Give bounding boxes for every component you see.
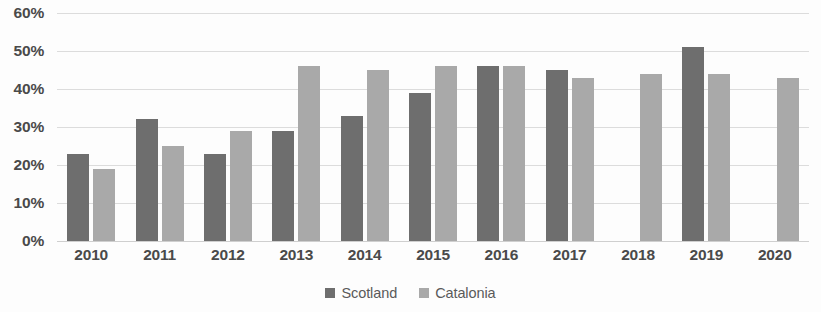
bar-catalonia xyxy=(572,78,594,241)
bar-scotland xyxy=(136,119,158,241)
x-axis-tick: 2014 xyxy=(330,246,398,274)
bar-catalonia xyxy=(708,74,730,241)
y-axis-tick: 0% xyxy=(22,232,44,250)
x-axis-tick: 2012 xyxy=(194,246,262,274)
bar-scotland xyxy=(546,70,568,241)
legend-swatch-icon xyxy=(325,288,335,298)
bar-catalonia xyxy=(367,70,389,241)
x-axis-tick: 2020 xyxy=(741,246,809,274)
y-axis: 60%50%40%30%20%10%0% xyxy=(0,0,50,241)
bar-group xyxy=(125,13,193,241)
bar-scotland xyxy=(272,131,294,241)
bar-catalonia xyxy=(435,66,457,241)
x-axis-tick: 2017 xyxy=(536,246,604,274)
y-axis-tick: 40% xyxy=(14,80,44,98)
y-axis-tick: 60% xyxy=(14,4,44,22)
bar-catalonia xyxy=(93,169,115,241)
bar-scotland xyxy=(204,154,226,241)
x-axis-tick: 2011 xyxy=(125,246,193,274)
x-axis-tick: 2013 xyxy=(262,246,330,274)
y-axis-tick: 10% xyxy=(14,194,44,212)
legend-label: Scotland xyxy=(341,285,397,301)
bar-scotland xyxy=(682,47,704,241)
bar-group xyxy=(399,13,467,241)
bar-group xyxy=(262,13,330,241)
bar-group xyxy=(604,13,672,241)
bar-group xyxy=(194,13,262,241)
y-axis-tick: 30% xyxy=(14,118,44,136)
bar-group xyxy=(672,13,740,241)
x-axis-tick: 2015 xyxy=(399,246,467,274)
bar-catalonia xyxy=(640,74,662,241)
bar-scotland xyxy=(409,93,431,241)
legend-item[interactable]: Catalonia xyxy=(419,285,495,301)
x-axis-tick: 2018 xyxy=(604,246,672,274)
x-axis: 2010201120122013201420152016201720182019… xyxy=(57,246,809,274)
bar-group xyxy=(536,13,604,241)
bar-catalonia xyxy=(503,66,525,241)
gridline xyxy=(57,241,809,242)
chart-legend: ScotlandCatalonia xyxy=(0,285,821,301)
x-axis-tick: 2010 xyxy=(57,246,125,274)
bar-group xyxy=(467,13,535,241)
bar-catalonia xyxy=(162,146,184,241)
plot-area xyxy=(57,13,809,241)
bar-scotland xyxy=(67,154,89,241)
bar-groups xyxy=(57,13,809,241)
x-axis-tick: 2016 xyxy=(467,246,535,274)
bar-catalonia xyxy=(777,78,799,241)
bar-chart: 60%50%40%30%20%10%0% 2010201120122013201… xyxy=(0,0,821,312)
x-axis-tick: 2019 xyxy=(672,246,740,274)
legend-swatch-icon xyxy=(419,288,429,298)
bar-group xyxy=(57,13,125,241)
bar-scotland xyxy=(341,116,363,241)
y-axis-tick: 20% xyxy=(14,156,44,174)
bar-group xyxy=(330,13,398,241)
bar-catalonia xyxy=(230,131,252,241)
legend-item[interactable]: Scotland xyxy=(325,285,397,301)
bar-group xyxy=(741,13,809,241)
bar-catalonia xyxy=(298,66,320,241)
bar-scotland xyxy=(477,66,499,241)
y-axis-tick: 50% xyxy=(14,42,44,60)
legend-label: Catalonia xyxy=(435,285,495,301)
